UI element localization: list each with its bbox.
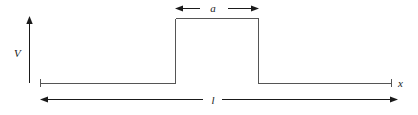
a-right-arrowhead-icon: [251, 5, 259, 11]
a-left-arrowhead-icon: [175, 5, 183, 11]
barrier-width-dimension-group: a: [175, 2, 259, 14]
barrier-width-label: a: [210, 2, 216, 14]
potential-barrier-figure: V x: [0, 0, 418, 115]
l-right-arrowhead-icon: [390, 96, 398, 102]
potential-barrier-diagram: V x: [0, 0, 418, 115]
total-length-dimension-group: l: [40, 94, 398, 106]
total-length-label: l: [211, 94, 214, 106]
v-axis-arrowhead-icon: [26, 16, 32, 24]
v-axis-group: [26, 16, 32, 83]
l-left-arrowhead-icon: [40, 96, 48, 102]
x-axis-label: x: [397, 77, 403, 89]
potential-curve-group: [40, 19, 392, 88]
v-axis-label: V: [14, 47, 22, 59]
